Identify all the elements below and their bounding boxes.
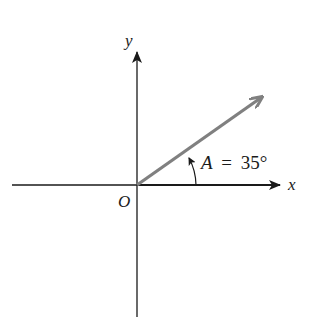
- x-axis-label: x: [287, 175, 296, 194]
- angle-value: 35°: [241, 152, 268, 173]
- angle-equals: =: [221, 152, 232, 173]
- y-axis-label: y: [123, 31, 133, 50]
- angle-arc: [189, 158, 196, 185]
- origin-label: O: [118, 192, 130, 211]
- angle-variable: A: [199, 152, 213, 173]
- angle-label: A = 35°: [199, 152, 267, 173]
- angle-diagram: y x O A = 35°: [0, 0, 319, 336]
